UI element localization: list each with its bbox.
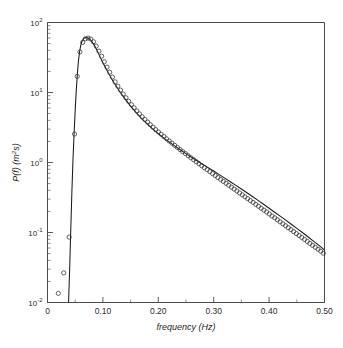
svg-text:P(f) (m2s): P(f) (m2s): [11, 143, 21, 181]
figure-background: [0, 0, 343, 348]
y-axis-title: P(f) (m2s): [11, 143, 21, 181]
svg-text:0.30: 0.30: [205, 306, 222, 316]
svg-text:frequency (Hz): frequency (Hz): [156, 322, 215, 332]
svg-text:0.20: 0.20: [150, 306, 167, 316]
svg-text:0.50: 0.50: [316, 306, 333, 316]
x-axis-title: frequency (Hz): [156, 322, 215, 332]
spectrum-figure: 10-210-1100101102 00.100.200.300.400.50 …: [0, 0, 343, 348]
svg-text:0.10: 0.10: [95, 306, 112, 316]
svg-text:0: 0: [45, 306, 50, 316]
svg-text:0.40: 0.40: [261, 306, 278, 316]
spectrum-plot: 10-210-1100101102 00.100.200.300.400.50 …: [0, 0, 343, 348]
